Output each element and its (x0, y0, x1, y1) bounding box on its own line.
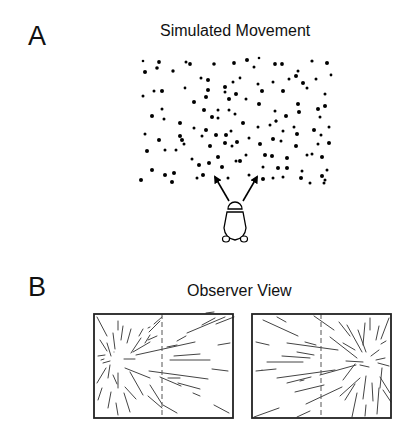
dot (157, 138, 161, 142)
flow-line (108, 392, 111, 408)
dot (306, 87, 309, 90)
flow-line (149, 321, 160, 332)
dot (217, 117, 220, 120)
dot (200, 77, 203, 80)
dot (293, 126, 296, 129)
flow-line (378, 363, 389, 366)
dot (197, 163, 201, 167)
dot-field (139, 57, 332, 185)
flow-line (376, 358, 385, 360)
flow-line (314, 316, 334, 330)
dot (284, 114, 288, 118)
flow-line (305, 342, 316, 345)
dot (224, 91, 227, 94)
dot (164, 149, 167, 152)
dot (220, 165, 224, 169)
diagram-canvas (0, 0, 413, 442)
dot (143, 70, 147, 74)
dot (207, 161, 211, 165)
dot (317, 143, 320, 146)
dot (150, 114, 154, 118)
dot (161, 108, 164, 111)
flow-line (339, 322, 350, 336)
dot (206, 88, 210, 92)
dot (270, 154, 274, 158)
flow-line (295, 385, 324, 392)
dot (285, 166, 289, 170)
dot (230, 130, 233, 133)
dot (274, 110, 277, 113)
dot (320, 134, 323, 137)
dot (272, 81, 275, 84)
flow-line (148, 327, 150, 328)
dot (310, 59, 313, 62)
dot (248, 174, 251, 177)
flow-line (101, 359, 104, 360)
dot (248, 137, 251, 140)
flow-line (125, 387, 136, 399)
dot (285, 156, 289, 160)
dot (325, 61, 329, 65)
dot (297, 70, 300, 73)
dot (280, 62, 284, 66)
dot (312, 128, 316, 132)
flow-line (193, 393, 200, 396)
dot (193, 127, 196, 130)
dot (188, 62, 192, 66)
dot (224, 133, 228, 137)
flow-line (297, 411, 310, 417)
flow-line (287, 377, 311, 383)
flow-line (214, 405, 229, 413)
dot (245, 58, 249, 62)
flow-line (358, 330, 366, 352)
dot (272, 177, 275, 180)
flow-line (277, 317, 286, 322)
flow-line (372, 383, 373, 401)
dot (208, 144, 212, 148)
flow-line (360, 365, 369, 367)
dot (238, 159, 242, 163)
flow-line (97, 368, 106, 383)
dot (309, 182, 312, 185)
dot (232, 81, 235, 84)
dot (323, 104, 327, 108)
dot (160, 89, 164, 93)
flow-line (212, 369, 228, 371)
flow-line (98, 355, 105, 356)
dot (234, 113, 237, 116)
dot (212, 62, 216, 66)
dot (171, 69, 174, 72)
flow-line (343, 364, 355, 380)
dot (145, 149, 149, 153)
flow-line (363, 323, 365, 345)
dot (180, 138, 184, 142)
dot (296, 102, 300, 106)
dot (273, 62, 277, 66)
dot (223, 85, 227, 89)
flow-line (330, 337, 357, 358)
dot (282, 176, 285, 179)
dot (275, 120, 278, 123)
dot (306, 154, 309, 157)
flow-line (347, 325, 362, 352)
dot (280, 140, 283, 143)
dot (299, 176, 303, 180)
dot (223, 141, 227, 145)
dot (150, 168, 154, 172)
dot (324, 93, 327, 96)
dot (328, 126, 331, 129)
flow-line (113, 375, 117, 384)
dot (320, 155, 324, 159)
dot (204, 128, 208, 132)
flow-line (365, 405, 366, 416)
right-view (252, 314, 391, 418)
arrow-right (243, 177, 257, 201)
dot (324, 179, 327, 182)
flow-line (381, 318, 389, 339)
flow-line (371, 350, 379, 356)
dot (157, 60, 161, 64)
dot (142, 60, 145, 63)
dot (227, 177, 230, 180)
flow-line (116, 403, 118, 415)
left-view (94, 312, 234, 418)
